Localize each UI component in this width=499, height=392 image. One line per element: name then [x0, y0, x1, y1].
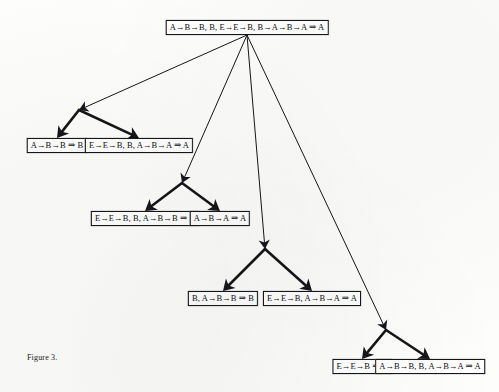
tree-node-n1: A→B→B ⇒ B — [27, 138, 87, 153]
tree-node-n8: A→B→B, B, A→B→A ⇒ A — [375, 359, 485, 374]
tree-node-n3: E→E→B, B, A→B→B ⇒ B — [91, 211, 199, 226]
tree-node-n6: E→E→B, A→B→A ⇒ A — [263, 291, 361, 306]
edge-root-to-j2 — [184, 35, 247, 179]
edge-j1-to-n1 — [60, 110, 79, 134]
tree-node-n5: B, A→B→B ⇒ B — [188, 291, 258, 306]
tree-edges — [0, 0, 499, 392]
edge-j4-to-n7 — [365, 330, 386, 355]
sequent-label: E→E→B, B, A→B→A ⇒ A — [89, 141, 189, 150]
edge-root-to-j1 — [83, 35, 247, 108]
sequent-label: A→B→B, B, E→E→B, B→A→B→A ⇒ A — [170, 23, 325, 32]
tree-node-n4: A→B→A ⇒ A — [190, 211, 250, 226]
figure-caption: Figure 3. — [27, 353, 57, 362]
tree-node-n2: E→E→B, B, A→B→A ⇒ A — [85, 138, 193, 153]
edge-j3-to-n5 — [227, 249, 265, 287]
sequent-label: E→E→B, B, A→B→B ⇒ B — [95, 214, 195, 223]
sequent-label: A→B→A ⇒ A — [194, 214, 246, 223]
edge-j2-to-n4 — [182, 183, 216, 208]
sequent-label: A→B→B ⇒ B — [31, 141, 83, 150]
edge-j1-to-n2 — [79, 110, 135, 136]
sequent-label: A→B→B, B, A→B→A ⇒ A — [379, 362, 481, 371]
figure-page: A→B→B, B, E→E→B, B→A→B→A ⇒ AA→B→B ⇒ BE→E… — [0, 0, 499, 392]
sequent-label: E→E→B, A→B→A ⇒ A — [267, 294, 357, 303]
sequent-label: B, A→B→B ⇒ B — [192, 294, 254, 303]
edge-j3-to-n6 — [265, 249, 308, 288]
edge-j4-to-n8 — [386, 330, 426, 356]
edge-j2-to-n3 — [149, 183, 182, 208]
tree-node-root: A→B→B, B, E→E→B, B→A→B→A ⇒ A — [166, 20, 329, 35]
edge-root-to-j4 — [247, 35, 384, 326]
